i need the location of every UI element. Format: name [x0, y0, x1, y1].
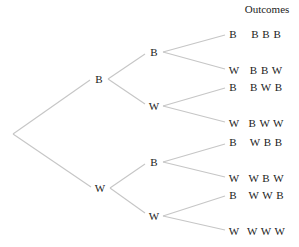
node-l3-7: B [229, 189, 236, 201]
branch-B-B [108, 54, 145, 79]
node-l1-W: W [95, 182, 105, 194]
node-l3-3: B [229, 81, 236, 93]
branch-root-B [13, 80, 90, 134]
node-l3-8: W [229, 225, 239, 237]
branch-W-B [110, 164, 145, 188]
outcome-8: W W W [247, 225, 285, 237]
outcome-5: W B B [250, 136, 282, 148]
node-l1-B: B [95, 73, 102, 85]
node-l3-4: W [229, 117, 239, 129]
node-l3-2: W [229, 64, 239, 76]
node-l2-WB: B [150, 156, 157, 168]
outcome-4: B W W [248, 117, 283, 129]
node-l2-WW: W [149, 210, 159, 222]
outcome-7: W W B [248, 189, 283, 201]
outcome-1: B B B [251, 28, 281, 40]
outcome-2: B B W [250, 64, 282, 76]
branch-W-W [110, 188, 145, 213]
branch-B-W [108, 79, 145, 104]
node-l2-BB: B [150, 46, 157, 58]
branch-root-W [13, 134, 91, 187]
outcome-6: W B W [248, 172, 283, 184]
node-l3-6: W [229, 172, 239, 184]
node-l3-1: B [229, 28, 236, 40]
node-l3-5: B [229, 136, 236, 148]
outcome-3: B W B [250, 81, 282, 93]
node-l2-BW: W [149, 100, 159, 112]
outcomes-header: Outcomes [245, 3, 290, 15]
